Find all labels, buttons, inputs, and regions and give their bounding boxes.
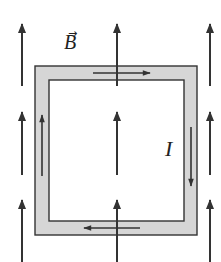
current-label: I <box>165 136 172 162</box>
diagram-canvas <box>0 0 221 262</box>
field-label: B <box>64 31 76 54</box>
